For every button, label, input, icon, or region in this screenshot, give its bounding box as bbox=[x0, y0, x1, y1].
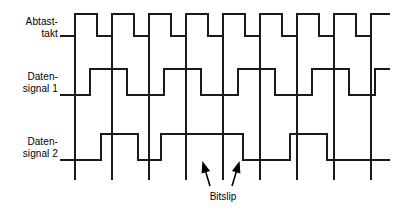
waveform-label-data-signal-2: Daten- signal 2 bbox=[2, 136, 58, 160]
timing-diagram-figure: Abtast- takt Daten- signal 1 Daten- sign… bbox=[0, 0, 408, 213]
timing-diagram-canvas bbox=[0, 0, 408, 213]
bitslip-arrow-group bbox=[202, 163, 239, 186]
waveform-group bbox=[60, 14, 390, 160]
waveform-trace bbox=[60, 69, 390, 95]
waveform-trace bbox=[60, 134, 390, 160]
bitslip-arrow-left bbox=[202, 163, 210, 186]
waveform-label-data-signal-1: Daten- signal 1 bbox=[2, 71, 58, 95]
waveform-label-clock: Abtast- takt bbox=[2, 16, 58, 40]
bitslip-annotation-label: Bitslip bbox=[183, 191, 263, 203]
bitslip-arrow-right bbox=[232, 163, 240, 186]
waveform-trace bbox=[60, 14, 390, 36]
